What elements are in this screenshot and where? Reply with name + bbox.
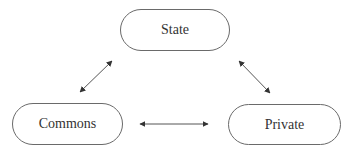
arrow-state-private (239, 61, 270, 93)
arrow-commons-state (80, 61, 112, 92)
node-commons-label: Commons (39, 116, 97, 132)
node-state-label: State (161, 22, 189, 38)
node-commons: Commons (12, 103, 123, 145)
node-private: Private (228, 104, 341, 145)
node-state: State (120, 9, 230, 51)
diagram-canvas: State Commons Private (0, 0, 345, 156)
node-private-label: Private (265, 117, 305, 133)
